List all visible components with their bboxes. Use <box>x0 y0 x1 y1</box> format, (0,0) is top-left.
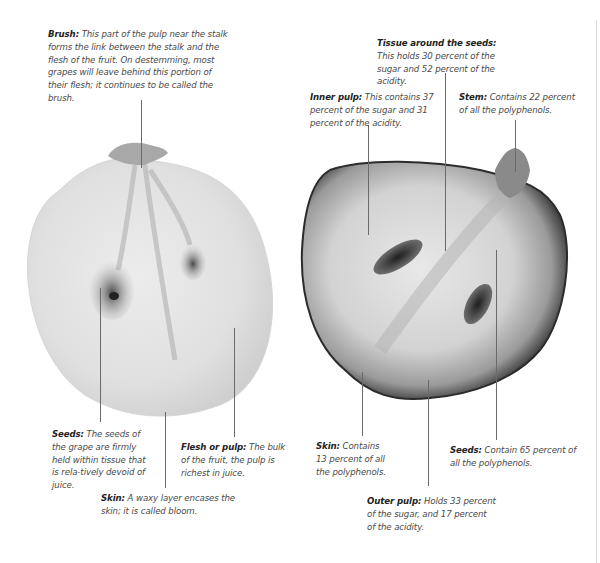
annotation-term: Brush: <box>48 29 79 39</box>
white-grape-seed-left <box>90 260 134 320</box>
white-grape-seed-right <box>180 244 206 280</box>
annotation-flesh: Flesh or pulp: The bulk of the fruit, th… <box>181 441 287 479</box>
annotation-text: This part of the pulp near the stalk for… <box>48 29 228 103</box>
annotation-tissue: Tissue around the seeds: This holds 30 p… <box>377 37 512 88</box>
annotation-term: Outer pulp: <box>367 496 421 506</box>
annotation-skin-right: Skin: Contains 13 percent of all the pol… <box>316 440 386 478</box>
leader-outer-pulp <box>428 380 429 486</box>
leader-tissue <box>445 73 446 251</box>
annotation-seeds-left: Seeds: The seeds of the grape are firmly… <box>52 428 154 492</box>
red-grape <box>302 148 567 399</box>
leader-skin-right <box>362 372 363 436</box>
leader-skin-left <box>165 412 166 488</box>
annotation-term: Flesh or pulp: <box>181 442 246 452</box>
annotation-term: Seeds: <box>450 445 482 455</box>
annotation-skin-left: Skin: A waxy layer encases the skin; it … <box>101 492 241 518</box>
annotation-term: Tissue around the seeds: <box>377 38 496 48</box>
leader-brush <box>141 100 142 168</box>
leader-stem <box>515 120 516 172</box>
annotation-seeds-right: Seeds: Contain 65 percent of all the pol… <box>450 444 585 470</box>
leader-seeds-right <box>496 250 497 440</box>
annotation-outer-pulp: Outer pulp: Holds 33 percent of the suga… <box>367 495 497 533</box>
white-grape <box>27 143 272 416</box>
annotation-inner-pulp: Inner pulp: This contains 37 percent of … <box>310 91 435 129</box>
annotation-term: Skin: <box>101 493 125 503</box>
annotation-term: Seeds: <box>52 429 84 439</box>
annotation-term: Inner pulp: <box>310 92 362 102</box>
annotation-text: This holds 30 percent of the sugar and 5… <box>377 51 495 87</box>
annotation-brush: Brush: This part of the pulp near the st… <box>48 28 228 105</box>
annotation-term: Skin: <box>316 441 340 451</box>
leader-inner-pulp <box>368 125 369 235</box>
leader-flesh <box>234 328 235 437</box>
white-grape-seed-left-core <box>109 292 119 300</box>
leader-seeds-left <box>100 288 101 422</box>
annotation-stem: Stem: Contains 22 percent of all the pol… <box>459 91 584 117</box>
annotation-term: Stem: <box>459 92 487 102</box>
